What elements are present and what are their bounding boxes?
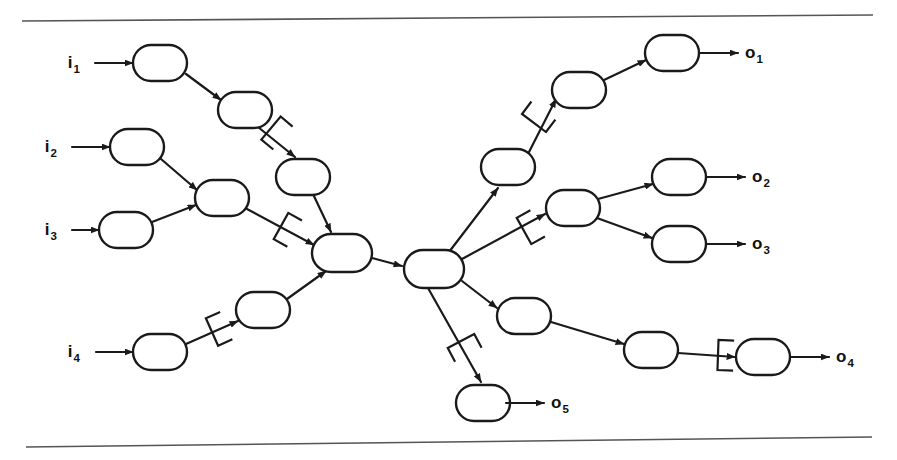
input-label-i2: i2 [45, 137, 57, 159]
node-n1[interactable] [133, 45, 187, 81]
edge-n9-to-n7 [287, 271, 326, 299]
edge-n10-to-n17 [462, 281, 497, 308]
edge-n12-to-n13 [604, 60, 646, 80]
network-diagram: i1i2i3i4o1o2o3o4o5 [0, 0, 897, 460]
nodes-layer [99, 35, 790, 421]
node-n10[interactable] [404, 250, 464, 288]
node-n16[interactable] [652, 226, 706, 262]
node-n17[interactable] [497, 298, 551, 334]
bracket-on-n10-n11 [522, 102, 555, 133]
input-label-i4: i4 [68, 342, 81, 364]
top-rule [22, 15, 873, 21]
edge-n11-to-n12 [528, 99, 556, 154]
output-label-o1: o1 [745, 43, 763, 65]
edge-n14-to-n15 [598, 184, 653, 199]
output-label-o3: o3 [752, 234, 770, 256]
node-n20[interactable] [456, 385, 510, 421]
edge-n14-to-n16 [597, 218, 652, 238]
node-n4[interactable] [99, 212, 153, 248]
node-n3[interactable] [110, 129, 164, 165]
node-n13[interactable] [645, 35, 699, 71]
edge-n17-to-n18 [551, 322, 624, 344]
input-label-i1: i1 [68, 53, 81, 75]
edge-n4-to-n5 [152, 205, 196, 222]
bottom-rule [26, 437, 872, 447]
node-n2[interactable] [218, 92, 272, 128]
node-n6[interactable] [276, 159, 330, 195]
output-label-o5: o5 [551, 393, 569, 415]
edge-n3-to-n5 [161, 159, 197, 190]
bracket-on-n10-n20 [448, 334, 482, 362]
diagram-page: i1i2i3i4o1o2o3o4o5 [0, 0, 897, 460]
edge-n6-to-n7 [313, 194, 331, 232]
node-n14[interactable] [546, 190, 600, 226]
node-n11[interactable] [481, 149, 535, 185]
output-label-o2: o2 [752, 167, 770, 189]
edge-n10-to-n14 [462, 214, 545, 259]
input-label-i3: i3 [45, 220, 57, 242]
node-n9[interactable] [236, 292, 290, 328]
node-n12[interactable] [552, 72, 606, 108]
node-n18[interactable] [624, 332, 678, 368]
edge-n7-to-n10 [372, 258, 402, 266]
node-n7[interactable] [312, 234, 372, 272]
node-n5[interactable] [195, 180, 249, 216]
edge-n18-to-n19 [678, 353, 735, 357]
edge-n1-to-n2 [186, 74, 221, 100]
node-n15[interactable] [652, 159, 706, 195]
node-n8[interactable] [133, 334, 187, 370]
node-n19[interactable] [736, 339, 790, 375]
output-label-o4: o4 [836, 347, 854, 369]
